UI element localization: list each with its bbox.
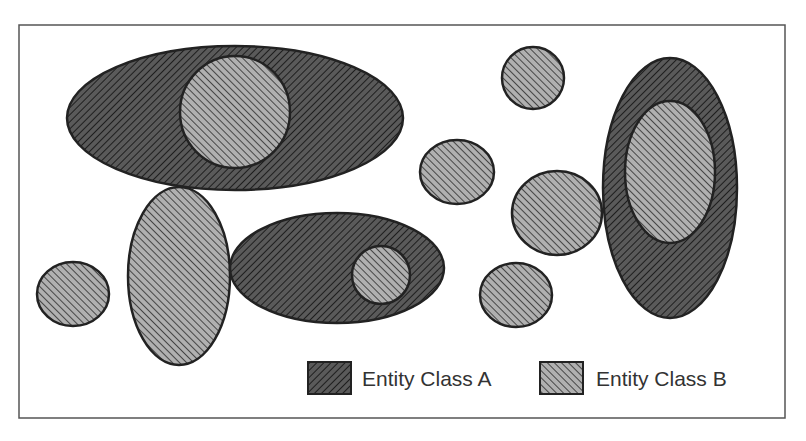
entity-class-b-shape [352, 246, 410, 304]
entity-class-b-shape [37, 262, 109, 326]
entity-class-b-shape [180, 56, 290, 168]
legend-label: Entity Class B [596, 367, 727, 390]
entity-class-b-shape [512, 171, 602, 255]
legend-item-class-a: Entity Class A [308, 362, 492, 394]
legend-label: Entity Class A [362, 367, 492, 390]
entity-class-b-shape [480, 263, 552, 327]
entity-class-b-shape [502, 47, 564, 109]
legend-item-class-b: Entity Class B [540, 362, 727, 394]
legend-swatch-icon [308, 362, 351, 394]
entity-class-b-shape [625, 101, 715, 243]
entity-class-a-shape [230, 213, 444, 323]
entity-class-b-shape [420, 140, 494, 204]
entity-diagram: Entity Class AEntity Class B [0, 0, 806, 441]
entity-class-b-shape [128, 187, 230, 365]
legend-swatch-icon [540, 362, 583, 394]
